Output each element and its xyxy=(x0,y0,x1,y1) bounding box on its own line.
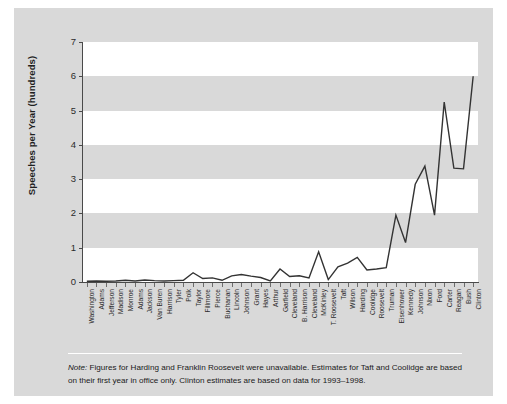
x-tick-label: Tyler xyxy=(176,289,183,303)
y-tick-label: 2 xyxy=(50,208,76,218)
x-tick-mark xyxy=(319,283,320,287)
x-tick-label: Taft xyxy=(341,289,348,300)
y-axis-line xyxy=(82,42,83,283)
x-tick-mark xyxy=(203,283,204,287)
line-series xyxy=(82,42,478,282)
x-tick-mark xyxy=(241,283,242,287)
y-tick-label: 4 xyxy=(50,140,76,150)
y-tick-mark xyxy=(79,145,82,146)
x-tick-mark xyxy=(106,283,107,287)
y-tick-mark xyxy=(79,76,82,77)
x-tick-label: Adams xyxy=(99,289,106,310)
figure-panel: Speeches per Year (hundreds) 01234567 Wa… xyxy=(14,8,493,396)
x-tick-mark xyxy=(290,283,291,287)
x-tick-label: Monroe xyxy=(128,289,135,311)
x-tick-mark xyxy=(116,283,117,287)
x-tick-mark xyxy=(444,283,445,287)
y-tick-label: 6 xyxy=(50,71,76,81)
x-tick-mark xyxy=(454,283,455,287)
x-tick-mark xyxy=(280,283,281,287)
x-tick-mark xyxy=(154,283,155,287)
x-tick-mark xyxy=(193,283,194,287)
x-tick-label: Jefferson xyxy=(109,289,116,316)
figure-note: Note: Figures for Harding and Franklin R… xyxy=(68,362,468,387)
x-tick-mark xyxy=(338,283,339,287)
y-tick-mark xyxy=(79,213,82,214)
x-tick-label: Bush xyxy=(466,289,473,304)
series-polyline xyxy=(87,76,473,281)
y-tick-label: 7 xyxy=(50,37,76,47)
x-tick-label: Taylor xyxy=(196,289,203,307)
x-tick-mark xyxy=(348,283,349,287)
x-tick-label: Fillmore xyxy=(205,289,212,312)
x-tick-mark xyxy=(212,283,213,287)
x-tick-mark xyxy=(145,283,146,287)
x-tick-label: T. Roosevelt xyxy=(331,289,338,325)
x-tick-mark xyxy=(183,283,184,287)
x-tick-label: Harrison xyxy=(167,289,174,314)
x-tick-label: Van Buren xyxy=(157,289,164,320)
x-tick-mark xyxy=(386,283,387,287)
x-tick-label: Harding xyxy=(360,289,367,312)
x-tick-label: Polk xyxy=(186,289,193,302)
x-tick-mark xyxy=(309,283,310,287)
plot-area xyxy=(82,42,478,282)
y-axis-title: Speeches per Year (hundreds) xyxy=(26,46,37,206)
x-tick-label: Clinton xyxy=(476,289,483,310)
x-tick-label: Pierce xyxy=(215,289,222,308)
x-tick-mark xyxy=(135,283,136,287)
y-tick-mark xyxy=(79,111,82,112)
x-tick-label: Eisenhower xyxy=(399,289,406,323)
x-tick-mark xyxy=(396,283,397,287)
x-tick-label: Grant xyxy=(254,289,261,306)
x-tick-mark xyxy=(251,283,252,287)
note-divider xyxy=(68,353,462,354)
x-tick-label: Wilson xyxy=(350,289,357,309)
x-tick-label: Carter xyxy=(447,289,454,307)
note-body: Figures for Harding and Franklin Rooseve… xyxy=(68,363,462,385)
y-tick-mark xyxy=(79,248,82,249)
x-tick-label: Ford xyxy=(437,289,444,303)
x-tick-label: Lincoln xyxy=(234,289,241,310)
x-tick-mark xyxy=(377,283,378,287)
note-label: Note: xyxy=(68,363,87,372)
x-tick-mark xyxy=(87,283,88,287)
x-tick-label: Hayes xyxy=(263,289,270,308)
x-tick-label: Garfield xyxy=(283,289,290,312)
x-tick-mark xyxy=(261,283,262,287)
x-tick-mark xyxy=(299,283,300,287)
x-tick-mark xyxy=(367,283,368,287)
y-tick-mark xyxy=(79,42,82,43)
x-tick-label: Washington xyxy=(89,289,96,324)
x-tick-mark xyxy=(164,283,165,287)
x-tick-label: Arthur xyxy=(273,289,280,307)
x-tick-mark xyxy=(96,283,97,287)
x-tick-label: Kennedy xyxy=(408,289,415,315)
x-tick-label: McKinley xyxy=(321,289,328,316)
x-tick-mark xyxy=(473,283,474,287)
y-tick-label: 3 xyxy=(50,174,76,184)
x-tick-label: Cleveland xyxy=(292,289,299,318)
x-tick-mark xyxy=(464,283,465,287)
x-tick-mark xyxy=(270,283,271,287)
x-tick-mark xyxy=(406,283,407,287)
x-tick-label: Jackson xyxy=(147,289,154,313)
x-tick-mark xyxy=(435,283,436,287)
x-tick-mark xyxy=(174,283,175,287)
x-tick-label: Roosevelt xyxy=(379,289,386,318)
x-tick-label: Johnson xyxy=(418,289,425,314)
x-tick-mark xyxy=(357,283,358,287)
x-tick-label: Madison xyxy=(118,289,125,314)
x-tick-label: Buchanan xyxy=(225,289,232,319)
x-tick-label: Coolidge xyxy=(370,289,377,315)
x-tick-label: Adams xyxy=(138,289,145,310)
x-tick-mark xyxy=(222,283,223,287)
y-tick-label: 1 xyxy=(50,243,76,253)
y-tick-label: 5 xyxy=(50,106,76,116)
y-tick-label: 0 xyxy=(50,277,76,287)
x-tick-mark xyxy=(232,283,233,287)
x-tick-mark xyxy=(415,283,416,287)
x-tick-mark xyxy=(328,283,329,287)
x-tick-label: Reagan xyxy=(456,289,463,312)
x-tick-mark xyxy=(425,283,426,287)
